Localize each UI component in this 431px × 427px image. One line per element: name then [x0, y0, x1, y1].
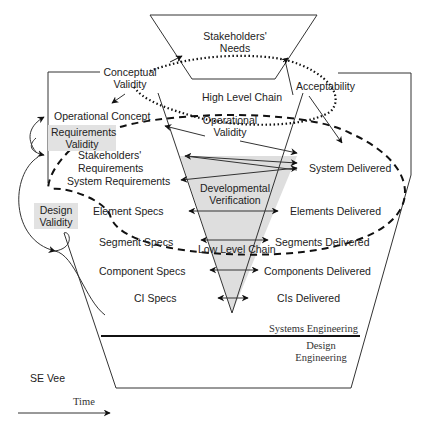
right-level-label: Elements Delivered: [290, 205, 381, 217]
requirements-validity-label: Requirements Validity: [48, 125, 116, 151]
acceptability-label: Acceptability: [296, 80, 355, 92]
stakeholders-needs-label: Stakeholders' Needs: [200, 30, 270, 54]
right-level-label: CIs Delivered: [277, 292, 340, 304]
conceptual-validity-label: Conceptual Validity: [98, 66, 162, 90]
verification-shade: [180, 156, 297, 313]
high-level-chain-label: High Level Chain: [202, 91, 282, 103]
design-validity-branch: [55, 233, 105, 315]
left-level-label: Requirements: [78, 162, 143, 174]
outer-frame-left: [64, 233, 351, 388]
left-level-label: Element Specs: [93, 205, 164, 217]
design-engineering-label: Design Engineering: [290, 340, 352, 364]
acceptability-arrow: [285, 60, 293, 95]
left-level-label: Operational Concept: [54, 110, 150, 122]
left-level-label: Segment Specs: [99, 236, 173, 248]
right-level-label: Components Delivered: [264, 265, 371, 277]
requirements-validity-curve: [30, 117, 44, 152]
developmental-verification-label: Developmental Verification: [195, 182, 275, 206]
time-axis-label: Time: [73, 396, 95, 408]
left-level-label: Component Specs: [99, 265, 185, 277]
low-level-chain-label: Low Level Chain: [198, 243, 276, 255]
right-level-label: System Delivered: [309, 162, 391, 174]
conceptual-validity-arrow: [112, 94, 125, 103]
left-level-label: CI Specs: [134, 292, 177, 304]
requirements-validity-curve-lower: [31, 138, 44, 155]
left-level-label: System Requirements: [67, 175, 170, 187]
operational-validity-arrow: [240, 141, 297, 153]
operational-validity-label: Operational Validity: [198, 114, 262, 138]
design-validity-label: Design Validity: [34, 203, 78, 229]
diagram-title: SE Vee: [30, 372, 65, 384]
systems-engineering-label: Systems Engineering: [269, 323, 358, 335]
right-level-label: Segments Delivered: [275, 236, 370, 248]
left-level-label: Stakeholders': [78, 149, 141, 161]
